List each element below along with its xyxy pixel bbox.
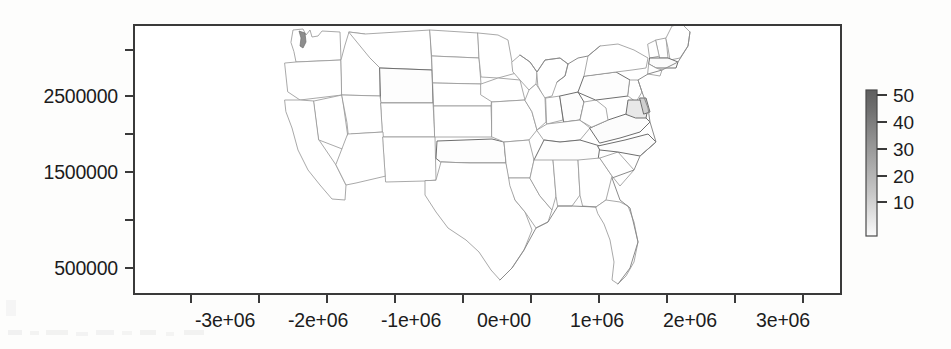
x-tick-label: 1e+06 <box>570 309 624 331</box>
state-south-dakota <box>432 56 481 84</box>
x-tick-label: -2e+06 <box>288 309 348 331</box>
colorbar-ticks <box>877 95 887 202</box>
colorbar-gradient <box>866 90 877 236</box>
legend-tick-label: 10 <box>893 192 914 213</box>
y-axis-ticks <box>125 50 134 268</box>
y-tick-label: 500000 <box>54 257 118 279</box>
y-axis-tick-labels: 2500000 1500000 500000 <box>43 85 118 279</box>
map-plot-svg: -3e+06 -2e+06 -1e+06 0e+00 1e+06 2e+06 3… <box>0 0 951 349</box>
state-iowa <box>481 78 525 102</box>
scan-noise-artifact <box>6 300 204 336</box>
colorbar-legend: 50 40 30 20 10 <box>866 85 914 236</box>
state-colorado <box>381 103 435 137</box>
x-axis-ticks <box>191 294 803 303</box>
legend-tick-label: 40 <box>893 112 914 133</box>
x-tick-label: 3e+06 <box>756 309 810 331</box>
legend-tick-label: 50 <box>893 85 914 106</box>
x-axis-tick-labels: -3e+06 -2e+06 -1e+06 0e+00 1e+06 2e+06 3… <box>195 309 810 331</box>
state-oregon <box>285 60 342 100</box>
state-arkansas <box>504 140 534 178</box>
legend-tick-label: 20 <box>893 166 914 187</box>
choropleth-map-figure: -3e+06 -2e+06 -1e+06 0e+00 1e+06 2e+06 3… <box>0 0 951 349</box>
y-tick-label: 1500000 <box>43 161 118 183</box>
state-oklahoma <box>436 139 506 163</box>
x-tick-label: 2e+06 <box>663 309 717 331</box>
y-tick-label: 2500000 <box>43 85 118 107</box>
state-north-dakota <box>430 30 479 58</box>
state-new-mexico <box>383 137 436 182</box>
state-kansas <box>434 106 492 137</box>
legend-tick-label: 30 <box>893 139 914 160</box>
state-alabama <box>553 160 580 206</box>
x-tick-label: -1e+06 <box>381 309 441 331</box>
x-tick-label: 0e+00 <box>477 309 531 331</box>
x-tick-label: -3e+06 <box>195 309 255 331</box>
colorbar-tick-labels: 50 40 30 20 10 <box>893 85 914 213</box>
state-wyoming <box>380 68 433 103</box>
